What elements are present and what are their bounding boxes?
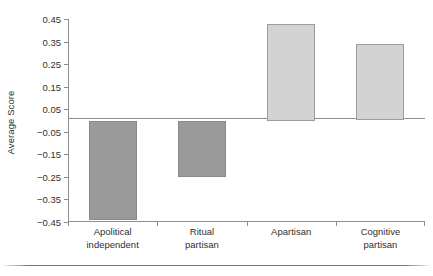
y-tick-mark [64,177,68,178]
category-label-line: Apartisan [247,226,336,239]
category-label-line: Ritual [157,226,246,239]
footer-divider [3,265,430,266]
y-tick-label: −0.15 [37,149,61,160]
y-tick-label: 0.35 [43,36,62,47]
y-tick-label: −0.35 [37,194,61,205]
y-axis-title-text: Average Score [6,90,17,154]
bar [178,121,226,177]
y-tick-mark [64,42,68,43]
category-label-line: partisan [157,239,246,252]
y-tick-label: 0.05 [43,104,62,115]
y-tick-mark [64,154,68,155]
category-label-line: independent [68,239,157,252]
y-tick-mark [64,87,68,88]
bar [89,121,137,220]
bar [356,44,404,121]
category-label-line: Apolitical [68,226,157,239]
y-axis-line [68,19,69,222]
y-tick-mark [64,109,68,110]
plot-area: 0.450.350.250.150.05−0.05−0.15−0.25−0.35… [68,19,425,222]
category-label: Apartisan [247,226,336,239]
y-tick-label: 0.15 [43,81,62,92]
category-label: Apoliticalindependent [68,226,157,251]
y-tick-label: 0.25 [43,59,62,70]
y-axis-title: Average Score [2,52,20,192]
category-label-line: Cognitive [336,226,425,239]
bar [267,24,315,121]
y-tick-label: −0.25 [37,171,61,182]
y-tick-label: −0.45 [37,217,61,228]
category-label: Ritualpartisan [157,226,246,251]
category-labels: ApoliticalindependentRitualpartisanApart… [68,226,425,260]
y-tick-label: −0.05 [37,126,61,137]
y-tick-mark [64,132,68,133]
y-tick-mark [64,19,68,20]
y-tick-label: 0.45 [43,14,62,25]
bar-chart-figure: Average Score 0.450.350.250.150.05−0.05−… [0,0,433,276]
category-label-line: partisan [336,239,425,252]
category-label: Cognitivepartisan [336,226,425,251]
y-tick-mark [64,64,68,65]
y-tick-mark [64,199,68,200]
